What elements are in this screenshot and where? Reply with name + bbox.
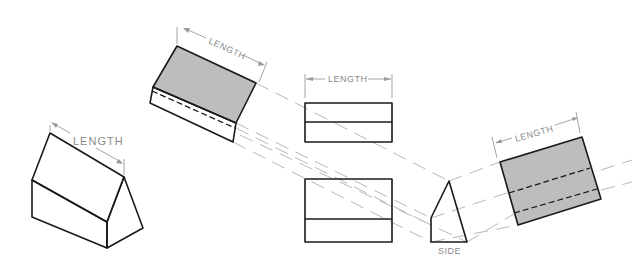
side-view-triangle [431, 181, 467, 242]
projection-line [601, 182, 632, 190]
auxiliary-view-right: LENGTH [492, 112, 601, 225]
front-view-rect [305, 179, 392, 242]
projection-line [240, 135, 467, 242]
projection-line [256, 83, 449, 181]
top-view-length-label: LENGTH [328, 74, 368, 84]
dimension-line [96, 148, 121, 162]
isometric-prism: LENGTH [32, 122, 143, 248]
shaded-face [500, 137, 601, 225]
top-view: LENGTH [305, 74, 392, 142]
projection-line [601, 160, 632, 170]
prism-end-face [107, 177, 143, 248]
projection-line [431, 193, 507, 218]
projection-diagram: LENGTH LENGTH LENGTH SIDE [0, 0, 632, 274]
side-view: SIDE [431, 181, 467, 256]
side-label: SIDE [438, 246, 461, 256]
aux-upper-length-label: LENGTH [207, 36, 247, 62]
projection-line [236, 123, 431, 218]
prism-front-face [32, 180, 107, 248]
front-view [305, 179, 392, 242]
iso-length-label: LENGTH [73, 135, 124, 147]
auxiliary-view-upper: LENGTH [150, 27, 267, 142]
projection-line [431, 225, 518, 242]
projection-line [467, 214, 514, 242]
projection-line [449, 162, 500, 181]
aux-right-length-label: LENGTH [514, 123, 555, 144]
